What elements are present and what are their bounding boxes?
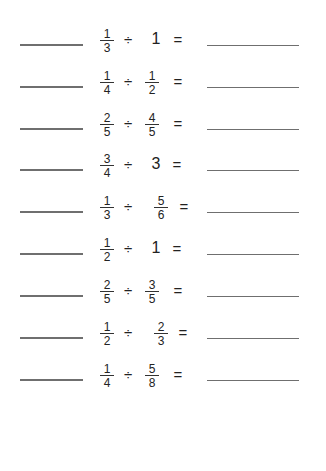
dividend-fraction: 25 <box>100 112 114 137</box>
left-answer-blank[interactable] <box>20 295 83 297</box>
numerator: 3 <box>100 153 114 164</box>
left-answer-blank[interactable] <box>20 253 83 255</box>
left-answer-blank[interactable] <box>20 86 83 88</box>
denominator: 5 <box>145 126 159 137</box>
equals-sign: = <box>171 116 185 131</box>
divide-sign: ÷ <box>121 367 135 382</box>
right-answer-blank[interactable] <box>207 87 299 89</box>
divide-sign: ÷ <box>121 283 135 298</box>
numerator: 3 <box>145 279 159 290</box>
equals-sign: = <box>171 367 185 382</box>
denominator: 3 <box>154 335 168 346</box>
divisor-fraction: 12 <box>145 70 159 95</box>
right-answer-blank[interactable] <box>207 45 299 47</box>
fraction-division-worksheet: 13÷1=14÷12=25÷45=34÷3=13÷56=12÷1=25÷35=1… <box>0 0 326 471</box>
left-answer-blank[interactable] <box>20 44 83 46</box>
dividend-fraction: 34 <box>100 153 114 178</box>
right-answer-blank[interactable] <box>207 338 299 340</box>
divide-sign: ÷ <box>121 199 135 214</box>
numerator: 4 <box>145 112 159 123</box>
denominator: 3 <box>100 42 114 53</box>
denominator: 5 <box>100 293 114 304</box>
dividend-fraction: 14 <box>100 363 114 388</box>
dividend-fraction: 14 <box>100 70 114 95</box>
denominator: 5 <box>100 126 114 137</box>
numerator: 1 <box>100 363 114 374</box>
numerator: 1 <box>100 195 114 206</box>
divide-sign: ÷ <box>121 157 135 172</box>
right-answer-blank[interactable] <box>207 170 299 172</box>
divisor-fraction: 45 <box>145 112 159 137</box>
left-answer-blank[interactable] <box>20 211 83 213</box>
numerator: 1 <box>100 237 114 248</box>
left-answer-blank[interactable] <box>20 379 83 381</box>
denominator: 4 <box>100 84 114 95</box>
divisor-fraction: 56 <box>154 195 168 220</box>
right-answer-blank[interactable] <box>207 380 299 382</box>
divisor-whole-number: 3 <box>149 156 163 172</box>
divide-sign: ÷ <box>121 116 135 131</box>
equals-sign: = <box>171 74 185 89</box>
left-answer-blank[interactable] <box>20 128 83 130</box>
divide-sign: ÷ <box>121 74 135 89</box>
right-answer-blank[interactable] <box>207 212 299 214</box>
denominator: 2 <box>145 84 159 95</box>
dividend-fraction: 12 <box>100 237 114 262</box>
denominator: 5 <box>145 293 159 304</box>
left-answer-blank[interactable] <box>20 337 83 339</box>
denominator: 4 <box>100 377 114 388</box>
denominator: 2 <box>100 335 114 346</box>
right-answer-blank[interactable] <box>207 296 299 298</box>
divisor-fraction: 35 <box>145 279 159 304</box>
equals-sign: = <box>177 199 191 214</box>
equals-sign: = <box>170 157 184 172</box>
right-answer-blank[interactable] <box>207 254 299 256</box>
dividend-fraction: 13 <box>100 195 114 220</box>
dividend-fraction: 25 <box>100 279 114 304</box>
divide-sign: ÷ <box>121 241 135 256</box>
numerator: 1 <box>100 70 114 81</box>
equals-sign: = <box>171 283 185 298</box>
denominator: 4 <box>100 167 114 178</box>
divide-sign: ÷ <box>121 325 135 340</box>
numerator: 5 <box>145 363 159 374</box>
numerator: 1 <box>100 321 114 332</box>
equals-sign: = <box>176 325 190 340</box>
problem-row: 14÷58= <box>0 0 326 42</box>
denominator: 2 <box>100 251 114 262</box>
divisor-fraction: 23 <box>154 321 168 346</box>
dividend-fraction: 12 <box>100 321 114 346</box>
left-answer-blank[interactable] <box>20 169 83 171</box>
equals-sign: = <box>170 241 184 256</box>
denominator: 6 <box>154 209 168 220</box>
numerator: 1 <box>145 70 159 81</box>
divisor-whole-number: 1 <box>149 240 163 256</box>
divisor-fraction: 58 <box>145 363 159 388</box>
denominator: 3 <box>100 209 114 220</box>
numerator: 2 <box>100 279 114 290</box>
denominator: 8 <box>145 377 159 388</box>
numerator: 2 <box>154 321 168 332</box>
numerator: 5 <box>154 195 168 206</box>
right-answer-blank[interactable] <box>207 129 299 131</box>
numerator: 2 <box>100 112 114 123</box>
